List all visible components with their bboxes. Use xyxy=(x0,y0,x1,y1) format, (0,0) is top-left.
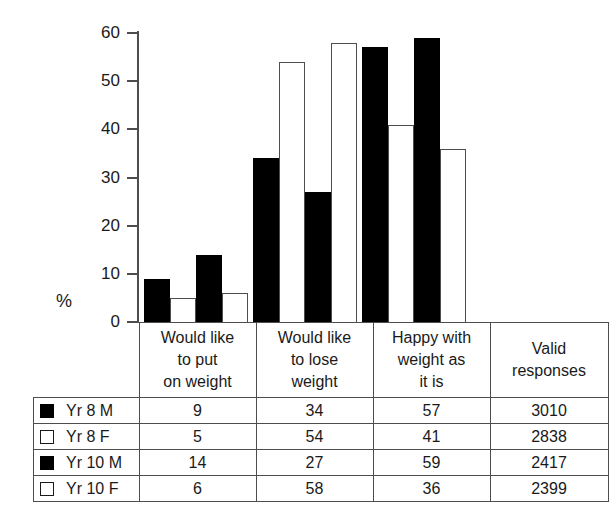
table-cell: 27 xyxy=(256,450,373,476)
table-cell: 9 xyxy=(139,398,256,424)
table-cell: 34 xyxy=(256,398,373,424)
table-header-lose-weight: Would liketo loseweight xyxy=(256,323,373,398)
bar-yr-8-m-group-2 xyxy=(253,158,279,322)
table-cell: 14 xyxy=(139,450,256,476)
y-axis-tick-mark xyxy=(127,225,138,227)
legend-swatch-icon xyxy=(40,456,54,470)
table-header-line: weight xyxy=(260,371,370,393)
table-header-line: to lose xyxy=(260,349,370,371)
table-cell: 57 xyxy=(373,398,490,424)
table-cell: 5 xyxy=(139,424,256,450)
bar-yr-10-f-group-3 xyxy=(440,149,466,322)
table-header-valid-responses: Validresponses xyxy=(490,323,608,398)
legend-entry-yr-8-f: Yr 8 F xyxy=(34,424,140,450)
y-axis-tick-mark xyxy=(127,80,138,82)
legend-entry-yr-10-m: Yr 10 M xyxy=(34,450,140,476)
legend-label: Yr 10 M xyxy=(66,454,122,472)
legend-swatch-icon xyxy=(40,482,54,496)
bar-yr-8-f-group-3 xyxy=(388,125,414,322)
table-cell: 58 xyxy=(256,476,373,502)
legend-label: Yr 8 F xyxy=(66,428,110,446)
table-row: Yr 8 F554412838 xyxy=(34,424,609,450)
y-axis-tick-mark xyxy=(127,32,138,34)
data-table: Would liketo puton weightWould liketo lo… xyxy=(33,322,609,502)
table-header-line: Happy with xyxy=(377,327,487,349)
table-header-line: Valid xyxy=(494,338,605,360)
bar-plot-area xyxy=(138,33,578,322)
legend-swatch-icon xyxy=(40,430,54,444)
table-row: Yr 10 F658362399 xyxy=(34,476,609,502)
y-axis-tick-label: 30 xyxy=(80,169,120,186)
table-header-line: responses xyxy=(494,360,605,382)
bar-yr-8-m-group-1 xyxy=(144,279,170,322)
bar-yr-10-f-group-1 xyxy=(222,293,248,322)
bar-yr-8-m-group-3 xyxy=(362,47,388,322)
table-header-line: Would like xyxy=(260,327,370,349)
legend-label: Yr 10 F xyxy=(66,480,118,498)
table-header-line: Would like xyxy=(143,327,253,349)
table-cell: 41 xyxy=(373,424,490,450)
table-header-line: to put xyxy=(143,349,253,371)
table-header-line: it is xyxy=(377,371,487,393)
legend-swatch-icon xyxy=(40,404,54,418)
table-row: Yr 8 M934573010 xyxy=(34,398,609,424)
table-header-row: Would liketo puton weightWould liketo lo… xyxy=(34,323,609,398)
table-cell: 6 xyxy=(139,476,256,502)
table-cell: 36 xyxy=(373,476,490,502)
table-cell: 2417 xyxy=(490,450,608,476)
y-axis-unit-label: % xyxy=(56,292,72,310)
y-axis-tick-label: 20 xyxy=(80,217,120,234)
chart-figure: 6050403020100 % Would liketo puton weigh… xyxy=(0,0,611,514)
table-header-legend xyxy=(34,323,140,398)
y-axis-tick-mark xyxy=(127,273,138,275)
legend-label: Yr 8 M xyxy=(66,402,113,420)
bar-yr-10-m-group-1 xyxy=(196,255,222,322)
bar-yr-8-f-group-1 xyxy=(170,298,196,322)
bar-yr-10-m-group-3 xyxy=(414,38,440,322)
table-cell: 2838 xyxy=(490,424,608,450)
table-header-happy-with-weight: Happy withweight asit is xyxy=(373,323,490,398)
table-cell: 59 xyxy=(373,450,490,476)
legend-entry-yr-10-f: Yr 10 F xyxy=(34,476,140,502)
table-cell: 2399 xyxy=(490,476,608,502)
legend-entry-yr-8-m: Yr 8 M xyxy=(34,398,140,424)
y-axis-tick-label: 60 xyxy=(80,24,120,41)
y-axis-tick-label: 10 xyxy=(80,265,120,282)
table-header-put-on-weight: Would liketo puton weight xyxy=(139,323,256,398)
y-axis-tick-label: 50 xyxy=(80,72,120,89)
y-axis-tick-mark xyxy=(127,128,138,130)
table-cell: 54 xyxy=(256,424,373,450)
table-row: Yr 10 M1427592417 xyxy=(34,450,609,476)
table-header-line: on weight xyxy=(143,371,253,393)
table-cell: 3010 xyxy=(490,398,608,424)
y-axis-tick-mark xyxy=(127,177,138,179)
y-axis-tick-label: 40 xyxy=(80,120,120,137)
bar-yr-10-f-group-2 xyxy=(331,43,357,322)
bar-yr-10-m-group-2 xyxy=(305,192,331,322)
bar-yr-8-f-group-2 xyxy=(279,62,305,322)
table-header-line: weight as xyxy=(377,349,487,371)
